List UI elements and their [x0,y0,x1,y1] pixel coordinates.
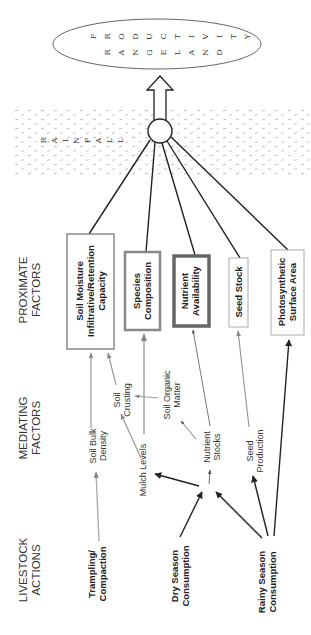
outcome-letter: N [201,46,210,60]
label-dry-season-consumption: Dry Season Consumption [170,545,192,606]
outcome-letter: T [229,30,238,44]
header-livestock-actions: LIVESTOCK ACTIONS [17,538,43,602]
label-seed-production: Seed Production [245,429,266,472]
label-nutrient-availability: Nutrient Availability [180,266,202,316]
outcome-letter: I [215,30,224,44]
rainfall-letter: A [94,135,103,146]
rainfall-letter: I [61,135,70,146]
outcome-letter: N [131,46,140,60]
mediating-arrows [91,330,249,541]
rainfall-letter: A [50,135,59,146]
junction-circle [148,119,172,143]
label-soil-moisture: Soil Moisture Infiltrative/Retention Cap… [75,245,108,337]
outcome-letter: Y [243,30,252,44]
outcome-letter: D [215,46,224,60]
outcome-letter: R [103,30,112,44]
header-mediating-factors: MEDIATING FACTORS [17,396,43,459]
label-mulch-levels: Mulch Levels [138,444,148,497]
outcome-letter: O [117,30,126,44]
outcome-label-line2: R A N G E L A N D [100,48,226,57]
outcome-letter: P [89,30,98,44]
outcome-letter: A [117,46,126,60]
label-nutrient-stocks: Nutrient Stocks [202,431,223,463]
label-rainy-season-consumption: Rainy Season Consumption [257,551,279,613]
label-trampling-compaction: Trampling/ Compaction [87,547,109,602]
outcome-letter: T [173,30,182,44]
outcome-letter: U [145,30,154,44]
rainfall-letter: R [39,135,48,146]
header-proximate-factors: PROXIMATE FACTORS [17,257,43,324]
label-soil-crusting: Soil Crusting [112,383,133,417]
rangeland-productivity-ellipse [53,19,261,69]
rainfall-letter: N [72,135,81,146]
outcome-letter: D [131,30,140,44]
rainfall-letter: L [105,135,114,146]
label-photosynthetic-surface-area: Photosynthetic Surface Area [277,258,299,327]
outcome-letter: E [159,46,168,60]
outcome-letter: L [173,46,182,60]
outcome-letter: C [159,30,168,44]
outcome-letter: I [187,30,196,44]
rainfall-letter: L [116,135,125,146]
outcome-letter: A [187,46,196,60]
outcome-letter: G [145,46,154,60]
label-soil-organic-matter: Soil Organic Matter [162,370,183,419]
outcome-label-line1: P R O D U C T I V I T Y [86,32,254,41]
label-seed-stock: Seed Stock [234,266,245,317]
label-species-composition: Species Composition [132,262,154,320]
diagram-canvas [0,0,311,635]
outcome-letter: V [201,30,210,44]
outcome-letter: R [103,46,112,60]
rainfall-letter: F [83,135,92,146]
label-soil-bulk-density: Soil Bulk Density [88,428,109,463]
rainfall-label: R A I N F A L L [38,136,126,145]
